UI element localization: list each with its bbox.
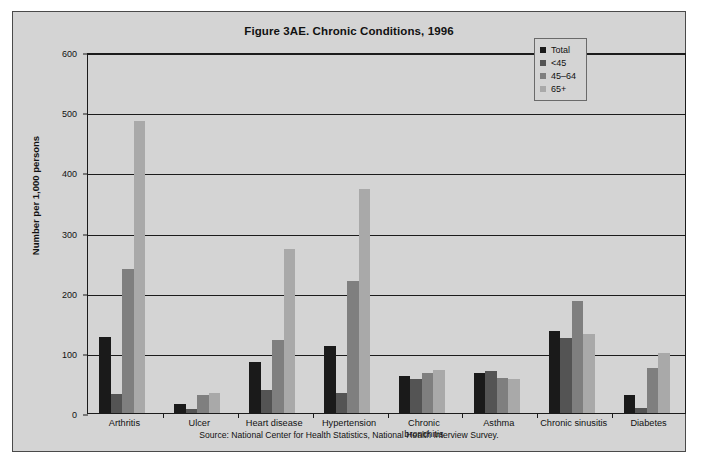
bar — [209, 393, 221, 413]
bar — [549, 331, 561, 413]
bar — [647, 368, 659, 413]
chart-legend: Total<4545–6465+ — [534, 38, 587, 101]
legend-item: 45–64 — [540, 70, 576, 82]
bar-group — [313, 54, 388, 413]
bar — [134, 121, 146, 413]
figure-panel: Figure 3AE. Chronic Conditions, 1996 Num… — [12, 11, 686, 452]
bar — [197, 395, 209, 413]
bar — [111, 394, 123, 413]
legend-label: 45–64 — [551, 71, 576, 81]
y-tick-label: 400 — [62, 169, 77, 179]
legend-swatch-icon — [540, 73, 546, 79]
legend-label: <45 — [551, 58, 566, 68]
bar-group — [462, 54, 537, 413]
legend-item: 65+ — [540, 83, 576, 95]
bar — [272, 340, 284, 413]
y-tick-mark — [83, 415, 88, 416]
bar — [583, 334, 595, 413]
y-tick-label: 500 — [62, 109, 77, 119]
bar — [474, 373, 486, 413]
bar — [635, 408, 647, 413]
bar-group — [88, 54, 163, 413]
source-note: Source: National Center for Health Stati… — [13, 430, 685, 440]
bar — [174, 404, 186, 413]
y-tick-label: 300 — [62, 230, 77, 240]
bar-group — [612, 54, 687, 413]
legend-label: Total — [551, 45, 570, 55]
y-tick-label: 600 — [62, 49, 77, 59]
y-tick-label: 200 — [62, 290, 77, 300]
bar — [422, 373, 434, 413]
y-tick-label: 100 — [62, 350, 77, 360]
legend-swatch-icon — [540, 60, 546, 66]
bar — [508, 379, 520, 413]
plot-area: 0100200300400500600 — [87, 53, 686, 414]
bar — [336, 393, 348, 413]
bar — [122, 269, 134, 413]
legend-label: 65+ — [551, 84, 566, 94]
bar — [410, 379, 422, 413]
bar — [284, 249, 296, 413]
x-axis-label: Diabetes — [611, 418, 686, 429]
bar-group — [238, 54, 313, 413]
bar-group — [537, 54, 612, 413]
x-axis-label: Arthritis — [87, 418, 162, 429]
legend-swatch-icon — [540, 47, 546, 53]
bar — [572, 301, 584, 413]
bar — [261, 390, 273, 413]
legend-item: <45 — [540, 57, 576, 69]
bar — [324, 346, 336, 413]
chart-title: Figure 3AE. Chronic Conditions, 1996 — [13, 25, 685, 37]
bar — [186, 409, 198, 413]
y-tick-label: 0 — [72, 410, 77, 420]
bar — [399, 376, 411, 413]
bar — [359, 189, 371, 413]
bar-group — [388, 54, 463, 413]
bar — [560, 338, 572, 413]
bar — [497, 378, 509, 413]
bar — [433, 370, 445, 413]
page-canvas: Figure 3AE. Chronic Conditions, 1996 Num… — [0, 0, 711, 470]
bar-group — [163, 54, 238, 413]
legend-item: Total — [540, 44, 576, 56]
bar — [99, 337, 111, 413]
bars-layer — [88, 54, 685, 413]
x-axis-label: Hypertension — [300, 418, 399, 429]
bar — [658, 353, 670, 413]
legend-swatch-icon — [540, 86, 546, 92]
y-axis-title: Number per 1,000 persons — [30, 111, 41, 281]
bar — [249, 362, 261, 413]
bar — [485, 371, 497, 413]
bar — [624, 395, 636, 413]
bar — [347, 281, 359, 413]
